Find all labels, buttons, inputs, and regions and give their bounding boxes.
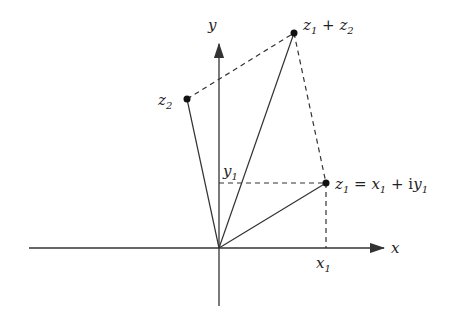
complex-addition-diagram: y x z1 + z2 z2 z1 = x1 + iy1 y1 x1	[0, 0, 465, 319]
label-z2: z2	[157, 91, 172, 111]
label-y1: y1	[222, 162, 238, 182]
vectors	[187, 33, 326, 248]
labels: y x z1 + z2 z2 z1 = x1 + iy1 y1 x1	[157, 16, 428, 274]
label-z1-plus-z2: z1 + z2	[302, 16, 354, 36]
label-z1: z1 = x1 + iy1	[334, 175, 428, 195]
x-axis-label: x	[391, 239, 400, 257]
point-z1-plus-z2	[291, 30, 298, 37]
label-x1: x1	[316, 254, 331, 274]
point-z1	[323, 180, 330, 187]
y-axis-label: y	[207, 16, 217, 34]
points	[184, 30, 330, 187]
point-z2	[184, 96, 191, 103]
